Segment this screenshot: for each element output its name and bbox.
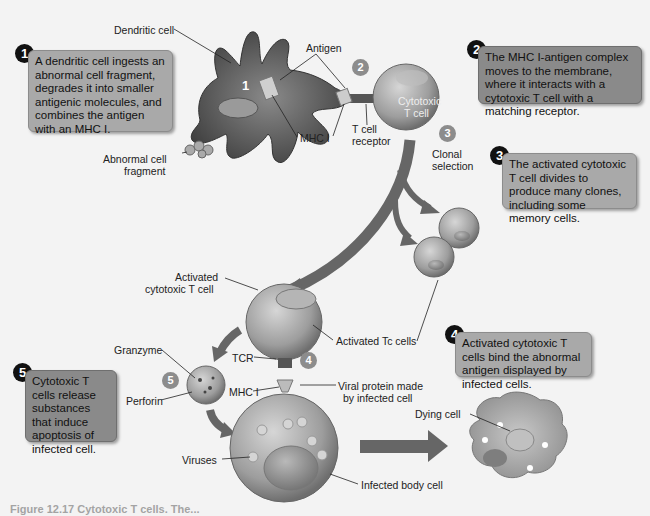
step-5-description: Cytotoxic T cells release substances tha… <box>25 370 117 442</box>
abnormal-fragment-shape <box>185 141 213 158</box>
label-activated-tc: Activated Tc cells <box>336 335 416 347</box>
label-activated-1: Activated <box>175 271 218 283</box>
label-viral-1: Viral protein made <box>338 380 423 392</box>
label-perforin: Perforin <box>126 395 163 407</box>
label-t-cell-receptor-2: receptor <box>352 135 391 147</box>
label-clonal-1: Clonal <box>432 148 462 160</box>
step-2-description: The MHC I-antigen complex moves to the m… <box>478 46 642 104</box>
label-viral-2: by infected cell <box>343 392 412 404</box>
label-mhc1-top: MHC I <box>300 132 330 144</box>
label-mhc1-bottom: MHC I <box>229 386 259 398</box>
label-infected-body-cell: Infected body cell <box>361 479 443 491</box>
label-clonal-2: selection <box>432 160 473 172</box>
label-t-cell-receptor-1: T cell <box>352 123 377 135</box>
step-1-description: A dendritic cell ingests an abnormal cel… <box>28 50 173 132</box>
step-3-description: The activated cytotoxic T cell divides t… <box>502 153 637 209</box>
label-viruses: Viruses <box>182 454 217 466</box>
diagram-marker-2: 2 <box>352 59 369 76</box>
diagram-marker-3: 3 <box>439 125 456 142</box>
label-granzyme: Granzyme <box>114 344 162 356</box>
label-cytotoxic-1: Cytotoxic <box>398 95 441 107</box>
label-antigen: Antigen <box>306 42 342 54</box>
diagram-marker-4: 4 <box>300 352 317 369</box>
label-tcr: TCR <box>232 352 254 364</box>
diagram-marker-5: 5 <box>162 372 179 389</box>
label-abnormal-1: Abnormal cell <box>103 153 167 165</box>
label-dying-cell: Dying cell <box>415 408 461 420</box>
label-cytotoxic-2: T cell <box>404 107 429 119</box>
label-dendritic-cell: Dendritic cell <box>114 24 174 36</box>
step-4-description: Activated cytotoxic T cells bind the abn… <box>455 332 592 377</box>
diagram-marker-1: 1 <box>242 78 249 93</box>
label-abnormal-2: fragment <box>124 165 165 177</box>
label-activated-2: cytotoxic T cell <box>145 283 213 295</box>
figure-caption: Figure 12.17 Cytotoxic T cells. The... <box>10 503 200 515</box>
